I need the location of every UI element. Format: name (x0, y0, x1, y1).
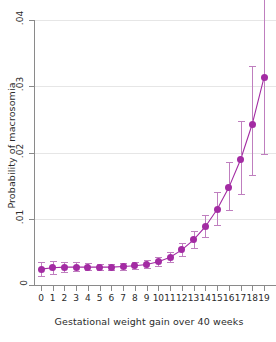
error-bar-cap (238, 194, 245, 195)
error-bar-cap (202, 215, 209, 216)
x-tick-mark (229, 286, 230, 291)
x-tick-mark (111, 286, 112, 291)
data-point-marker (167, 254, 174, 261)
y-tick-label: 0 (0, 278, 27, 288)
x-tick-mark (41, 286, 42, 291)
data-point-marker (202, 223, 209, 230)
x-tick-mark (252, 286, 253, 291)
error-bar-cap (50, 274, 57, 275)
error-bar-cap (167, 252, 174, 253)
error-bar-cap (167, 262, 174, 263)
error-bar-cap (179, 256, 186, 257)
error-bar-cap (38, 262, 45, 263)
data-point-marker (214, 206, 221, 213)
y-tick-label: .01 (0, 212, 27, 222)
error-bar-cap (226, 162, 233, 163)
y-tick-label: .03 (0, 79, 27, 89)
error-bar-cap (38, 276, 45, 277)
error-bar-cap (214, 225, 221, 226)
error-bar-cap (191, 248, 198, 249)
x-tick-mark (217, 286, 218, 291)
error-bar-cap (238, 121, 245, 122)
data-point-marker (38, 266, 45, 273)
error-bar-cap (214, 192, 221, 193)
data-point-marker (61, 264, 68, 271)
x-tick-mark (205, 286, 206, 291)
x-tick-mark (53, 286, 54, 291)
error-bar-cap (191, 231, 198, 232)
data-point-marker (108, 264, 115, 271)
x-tick-mark (170, 286, 171, 291)
x-tick-mark (194, 286, 195, 291)
x-tick-mark (100, 286, 101, 291)
chart-container: Probability of macrosomia 0.01.02.03.04 … (0, 0, 276, 342)
y-tick-mark (29, 20, 34, 21)
y-tick-mark (29, 153, 34, 154)
x-tick-mark (64, 286, 65, 291)
x-tick-mark (123, 286, 124, 291)
y-tick-label: .02 (0, 146, 27, 156)
error-bar-cap (249, 175, 256, 176)
x-tick-mark (76, 286, 77, 291)
plot-area (34, 20, 276, 285)
error-bar-cap (261, 154, 268, 155)
error-bar-cap (249, 66, 256, 67)
x-tick-mark (264, 286, 265, 291)
x-tick-mark (88, 286, 89, 291)
error-bar-cap (61, 262, 68, 263)
y-tick-mark (29, 285, 34, 286)
x-tick-label: 19 (253, 293, 275, 303)
error-bar-cap (50, 261, 57, 262)
data-point-marker (120, 263, 127, 270)
x-tick-mark (135, 286, 136, 291)
y-tick-mark (29, 86, 34, 87)
x-tick-mark (241, 286, 242, 291)
error-bar-cap (61, 272, 68, 273)
error-bar-cap (132, 269, 139, 270)
data-point-marker (261, 74, 268, 81)
y-tick-mark (29, 219, 34, 220)
x-axis-title: Gestational weight gain over 40 weeks (22, 316, 276, 327)
data-point-marker (96, 264, 103, 271)
error-bar-cap (179, 243, 186, 244)
y-tick-label: .04 (0, 13, 27, 23)
error-bar-cap (226, 210, 233, 211)
error-bar-cap (73, 271, 80, 272)
x-tick-mark (158, 286, 159, 291)
error-bar-cap (155, 266, 162, 267)
y-axis-line (34, 20, 35, 286)
error-bar-cap (202, 237, 209, 238)
x-tick-mark (182, 286, 183, 291)
x-tick-mark (147, 286, 148, 291)
data-point-marker (249, 121, 256, 128)
data-point-marker (73, 264, 80, 271)
